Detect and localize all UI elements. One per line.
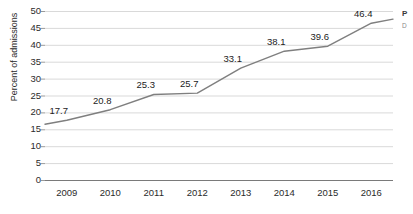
y-axis-tick-label: 5 — [17, 158, 41, 168]
data-point-label: 38.1 — [256, 37, 296, 47]
y-axis-tick-label: 35 — [17, 57, 41, 67]
data-point-label: 25.3 — [126, 80, 166, 90]
data-point-label: 46.4 — [343, 9, 383, 19]
line-chart: Percent of admissions 051015202530354045… — [0, 0, 413, 214]
data-point-label: 33.1 — [213, 54, 253, 64]
data-point-label: 39.6 — [300, 32, 340, 42]
x-axis-tick-label: 2016 — [349, 188, 393, 198]
legend-title: P — [402, 10, 413, 19]
x-axis-tick-label: 2014 — [262, 188, 306, 198]
series-line-percent-of-admissions — [45, 19, 393, 124]
x-axis-tick-label: 2015 — [306, 188, 350, 198]
x-axis-tick-label: 2011 — [132, 188, 176, 198]
legend-cropped: P D — [402, 10, 413, 40]
data-point-label: 25.7 — [169, 79, 209, 89]
y-axis-tick-label: 25 — [17, 91, 41, 101]
legend-item: D — [402, 22, 413, 30]
y-axis-tick-label: 20 — [17, 107, 41, 117]
y-axis-tick-label: 40 — [17, 40, 41, 50]
data-point-label: 17.7 — [39, 106, 79, 116]
y-axis-tick-label: 50 — [17, 6, 41, 16]
x-axis-tick-label: 2009 — [45, 188, 89, 198]
y-axis-tick-label: 15 — [17, 124, 41, 134]
x-axis-tick-label: 2010 — [88, 188, 132, 198]
data-point-label: 20.8 — [82, 96, 122, 106]
y-axis-tick-label: 30 — [17, 74, 41, 84]
x-axis-tick-label: 2012 — [175, 188, 219, 198]
y-axis-tick-label: 45 — [17, 23, 41, 33]
y-axis-tick-label: 10 — [17, 141, 41, 151]
y-axis-tick-label: 0 — [17, 175, 41, 185]
x-axis-tick-label: 2013 — [219, 188, 263, 198]
